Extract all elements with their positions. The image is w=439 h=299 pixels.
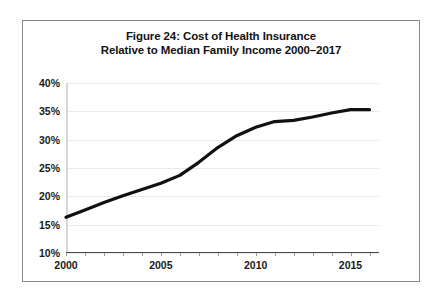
x-tick-mark-2006 (180, 253, 181, 256)
y-tick-label-20: 20% (39, 190, 60, 202)
y-tick-label-40: 40% (39, 77, 60, 89)
chart-title: Figure 24: Cost of Health Insurance Rela… (23, 29, 419, 57)
x-tick-mark-2004 (142, 253, 143, 256)
x-tick-mark-2015 (351, 253, 352, 256)
x-tick-label-2015: 2015 (339, 259, 362, 271)
y-tick-label-15: 15% (39, 219, 60, 231)
x-tick-mark-2012 (294, 253, 295, 256)
x-tick-mark-2010 (256, 253, 257, 256)
x-tick-mark-2011 (275, 253, 276, 256)
x-tick-mark-2001 (85, 253, 86, 256)
x-tick-mark-2005 (161, 253, 162, 256)
x-tick-label-2010: 2010 (244, 259, 267, 271)
x-tick-label-2005: 2005 (149, 259, 172, 271)
x-tick-mark-2000 (66, 253, 67, 256)
chart-title-line-1: Figure 24: Cost of Health Insurance (23, 29, 419, 43)
plot-area: 40%35%30%25%20%15%10% 2000200520102015 (66, 83, 379, 253)
x-tick-mark-2013 (313, 253, 314, 256)
y-tick-label-10: 10% (39, 247, 60, 259)
y-tick-label-25: 25% (39, 162, 60, 174)
x-tick-mark-2014 (332, 253, 333, 256)
x-tick-mark-2002 (104, 253, 105, 256)
series-chart-svg (66, 83, 379, 253)
x-tick-mark-2016 (370, 253, 371, 256)
y-tick-label-30: 30% (39, 134, 60, 146)
x-tick-mark-2008 (218, 253, 219, 256)
x-tick-mark-2003 (123, 253, 124, 256)
figure-frame: Figure 24: Cost of Health Insurance Rela… (22, 20, 420, 282)
x-tick-mark-2007 (199, 253, 200, 256)
x-tick-mark-2009 (237, 253, 238, 256)
y-tick-label-35: 35% (39, 105, 60, 117)
chart-title-line-2: Relative to Median Family Income 2000–20… (23, 43, 419, 57)
series-line-health-insurance-cost (66, 110, 370, 218)
x-tick-label-2000: 2000 (54, 259, 77, 271)
